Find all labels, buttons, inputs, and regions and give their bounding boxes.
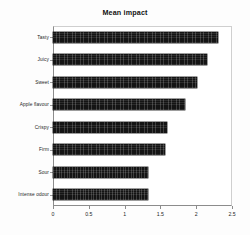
x-axis-tick-label: 2 (195, 211, 198, 217)
x-axis-tick-mark (89, 206, 90, 209)
x-axis-tick-label: 1.5 (157, 211, 164, 217)
x-axis-tick-mark (196, 206, 197, 209)
bar (53, 122, 167, 133)
x-axis-tick-mark (160, 206, 161, 209)
y-axis-tick-label: Sour (38, 170, 49, 175)
y-axis-tick-label: Crispy (35, 125, 49, 130)
bar (53, 99, 185, 110)
bar-slot (53, 184, 232, 207)
y-axis-label-slot: Intense odour (0, 184, 49, 207)
chart-figure: Mean impact TastyJuicySweetApple flavour… (0, 0, 250, 235)
x-axis-tick-mark (53, 206, 54, 209)
y-axis-tick-label: Firm (39, 147, 49, 152)
bar (53, 144, 165, 155)
y-axis-label-slot: Apple flavour (0, 94, 49, 117)
x-axis-tick-mark (125, 206, 126, 209)
y-axis-label-slot: Sweet (0, 71, 49, 94)
bar (53, 54, 207, 65)
y-axis-category-labels: TastyJuicySweetApple flavourCrispyFirmSo… (0, 26, 49, 206)
y-axis-tick-label: Sweet (35, 80, 49, 85)
bar-slot (53, 139, 232, 162)
y-axis-label-slot: Tasty (0, 26, 49, 49)
bar (53, 167, 148, 178)
x-axis-tick-mark (232, 206, 233, 209)
bar-slot (53, 94, 232, 117)
x-axis-tick-label: 0 (52, 211, 55, 217)
bar (53, 32, 218, 43)
y-axis-tick-label: Tasty (37, 35, 49, 40)
y-axis-label-slot: Crispy (0, 116, 49, 139)
y-axis-label-slot: Firm (0, 139, 49, 162)
bar-slot (53, 49, 232, 72)
bar (53, 77, 197, 88)
bar-slot (53, 71, 232, 94)
x-axis-tick-label: 2.5 (228, 211, 235, 217)
y-axis-tick-label: Intense odour (18, 192, 49, 197)
bar-series (53, 26, 232, 206)
bar-slot (53, 26, 232, 49)
y-axis-tick-label: Juicy (38, 57, 49, 62)
y-axis-label-slot: Sour (0, 161, 49, 184)
bar-slot (53, 161, 232, 184)
y-axis-tick-label: Apple flavour (20, 102, 49, 107)
x-axis-tick-label: 1 (123, 211, 126, 217)
x-axis: 00.511.522.5 (53, 206, 232, 222)
chart-title: Mean impact (0, 8, 250, 17)
y-axis-label-slot: Juicy (0, 49, 49, 72)
bar (53, 189, 148, 200)
bar-slot (53, 116, 232, 139)
x-axis-tick-label: 0.5 (85, 211, 92, 217)
